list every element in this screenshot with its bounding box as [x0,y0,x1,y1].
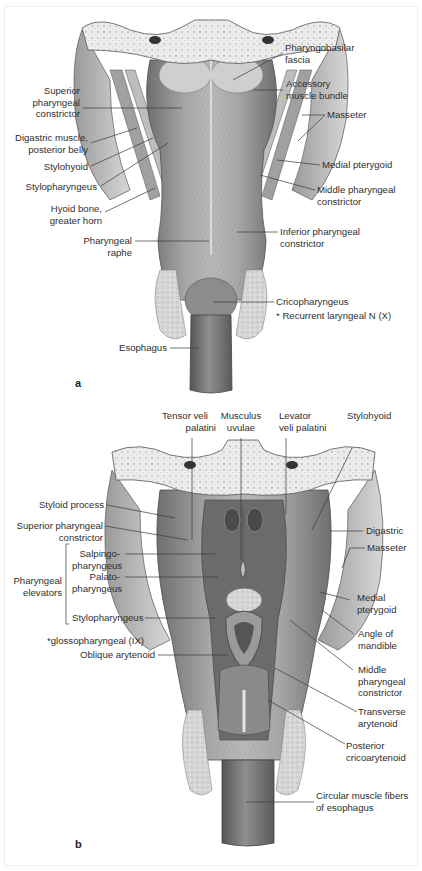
label-line: pterygoid [357,604,396,616]
label-transverse-arytenoid: Transverse arytenoid [358,706,406,729]
label-posterior-cricoarytenoid: Posterior cricoarytenoid [346,740,406,763]
label-salpingopharyngeus: Salpingo- pharyngeus [40,548,120,571]
label-line: Medial [357,592,396,604]
label-line: Salpingo- [40,548,120,560]
label-stylohyoid-b: Stylohyoid [347,410,391,422]
label-styloid-process: Styloid process [0,499,104,511]
label-line: constrictor [317,196,395,208]
label-stylopharyngeus-a: Stylopharyngeus [0,181,97,193]
label-line: pharyngeal [10,97,80,109]
label-line: Stylohyoid [347,410,391,422]
label-line: of esophagus [316,802,408,814]
label-line: Oblique arytenoid [80,649,155,661]
label-line: palatini [150,422,220,434]
label-line: greater horn [0,215,102,227]
label-line: uvulae [214,422,268,434]
label-line: Circular muscle fibers [316,790,408,802]
label-hyoid-bone-greater-horn: Hyoid bone, greater horn [0,203,102,226]
panel-letter-a: a [75,377,81,389]
label-line: Levator [279,410,326,422]
label-recurrent-laryngeal-note: * Recurrent laryngeal N (X) [276,310,391,322]
label-line: Middle [358,664,405,676]
label-line: Masseter [327,109,366,121]
label-middle-pharyngeal-constrictor-b: Middle pharyngeal constrictor [358,664,405,699]
label-line: constrictor [280,238,360,250]
label-line: Tensor veli [150,410,220,422]
label-line: cricoarytenoid [346,752,406,764]
label-line: Cricopharyngeus [276,296,349,308]
label-line: Middle pharyngeal [317,184,395,196]
label-line: Posterior [346,740,406,752]
label-line: mandible [358,640,397,652]
label-oblique-arytenoid: Oblique arytenoid [80,649,155,661]
label-line: pharyngeus [40,560,120,572]
label-line: elevators [0,587,62,599]
label-line: constrictor [10,108,80,120]
label-accessory-muscle-bundle: Accessory muscle bundle [286,78,348,101]
label-stylopharyngeus-b: Stylopharyngeus [72,612,143,624]
label-pharyngeal-raphe: Pharyngeal raphe [40,235,132,258]
label-line: Stylohyoid [0,161,88,173]
label-line: Pharyngobasilar [285,42,354,54]
label-line: * Recurrent laryngeal N (X) [276,310,391,322]
label-line: muscle bundle [286,90,348,102]
panel-a-art [74,20,348,393]
label-medial-pterygoid-a: Medial pterygoid [322,159,392,171]
label-esophagus-a: Esophagus [80,342,167,354]
label-glossopharyngeal-note: *glossopharyngeal (IX) [47,635,144,647]
label-line: Digastric muscle, [0,132,88,144]
label-line: Masseter [367,542,406,554]
panel-b-art [105,440,383,846]
label-line: pharyngeal [358,676,405,688]
label-cricopharyngeus: Cricopharyngeus [276,296,349,308]
label-superior-pharyngeal-constrictor-b: Superior pharyngeal constrictor [0,520,103,543]
label-line: arytenoid [358,718,406,730]
label-line: Accessory [286,78,348,90]
label-masseter-b: Masseter [367,542,406,554]
label-tensor-veli-palatini: Tensor veli palatini [150,410,220,433]
label-medial-pterygoid-b: Medial pterygoid [357,592,396,615]
label-line: veli palatini [279,422,326,434]
label-line: Stylopharyngeus [72,612,143,624]
label-middle-pharyngeal-constrictor-a: Middle pharyngeal constrictor [317,184,395,207]
label-line: Styloid process [0,499,104,511]
label-levator-veli-palatini: Levator veli palatini [279,410,326,433]
label-line: posterior belly [0,144,88,156]
label-line: fascia [285,54,354,66]
label-line: Pharyngeal [0,575,62,587]
label-line: Musculus [214,410,268,422]
label-musculus-uvulae: Musculus uvulae [214,410,268,433]
label-line: Stylopharyngeus [0,181,97,193]
label-line: Hyoid bone, [0,203,102,215]
label-line: Angle of [358,628,397,640]
label-line: Pharyngeal [40,235,132,247]
label-line: Superior pharyngeal [0,520,103,532]
label-line: Inferior pharyngeal [280,226,360,238]
label-line: constrictor [0,532,103,544]
label-line: raphe [40,247,132,259]
label-stylohyoid-a: Stylohyoid [0,161,88,173]
label-line: Superior [10,85,80,97]
label-line: *glossopharyngeal (IX) [47,635,144,647]
label-line: constrictor [358,687,405,699]
label-line: Transverse [358,706,406,718]
label-digastric-posterior-belly: Digastric muscle, posterior belly [0,132,88,155]
label-circular-muscle-fibers: Circular muscle fibers of esophagus [316,790,408,813]
label-digastric-b: Digastric [366,525,403,537]
label-line: Esophagus [80,342,167,354]
label-pharyngobasilar-fascia: Pharyngobasilar fascia [285,42,354,65]
label-line: Digastric [366,525,403,537]
label-angle-of-mandible: Angle of mandible [358,628,397,651]
label-superior-pharyngeal-constrictor-a: Superior pharyngeal constrictor [10,85,80,120]
label-pharyngeal-elevators: Pharyngeal elevators [0,575,62,598]
panel-letter-b: b [75,838,82,850]
label-masseter-a: Masseter [327,109,366,121]
label-inferior-pharyngeal-constrictor: Inferior pharyngeal constrictor [280,226,360,249]
label-line: Medial pterygoid [322,159,392,171]
